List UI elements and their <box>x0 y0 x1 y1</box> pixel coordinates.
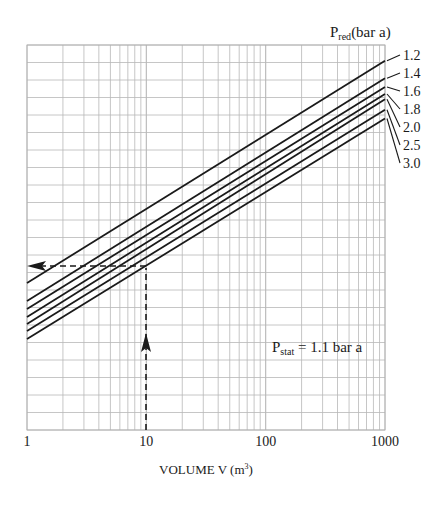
legend-leader-line <box>387 94 400 109</box>
legend-label: 1.6 <box>403 84 421 99</box>
series-line-3-0 <box>27 119 385 340</box>
series-line-1-4 <box>27 78 385 301</box>
legend-leader-line <box>387 73 400 78</box>
x-tick-labels: 1101001000 <box>24 434 400 449</box>
legend-label: 1.8 <box>403 102 421 117</box>
x-tick-label: 10 <box>139 434 153 449</box>
series-line-1-8 <box>27 94 385 317</box>
legend-label: 2.5 <box>403 138 421 153</box>
legend-label: 1.2 <box>403 48 421 63</box>
series-line-1-6 <box>27 87 385 309</box>
x-axis-label: VOLUME V (m3) <box>159 462 253 477</box>
legend-label: 1.4 <box>403 66 421 81</box>
series-line-1-2 <box>27 61 385 283</box>
legend-leader-line <box>387 87 400 91</box>
x-tick-label: 1000 <box>371 434 399 449</box>
legend-title: Pred(bar a) <box>330 24 391 42</box>
legend-leader-line <box>387 99 400 127</box>
guide-arrows <box>27 261 151 430</box>
legend-leaders <box>387 55 400 163</box>
chart: 1.21.41.61.82.02.53.0 Pred(bar a) Pstat … <box>0 0 446 505</box>
legend-label: 2.0 <box>403 120 421 135</box>
legend-labels: 1.21.41.61.82.02.53.0 <box>403 48 421 171</box>
x-tick-label: 1 <box>24 434 31 449</box>
legend-label: 3.0 <box>403 156 421 171</box>
series-lines <box>27 61 385 339</box>
pstat-annotation: Pstat = 1.1 bar a <box>272 339 363 357</box>
x-tick-label: 100 <box>255 434 276 449</box>
legend-leader-line <box>387 55 400 61</box>
grid <box>27 45 385 430</box>
